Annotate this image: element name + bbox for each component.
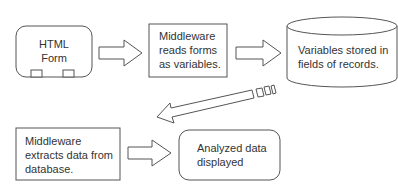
html-form-label: HTML Form: [37, 37, 71, 65]
form-tab-left: [31, 70, 42, 77]
arrow-database-to-extract: [157, 85, 276, 123]
arrow-stripe-2: [264, 86, 271, 95]
middleware-extract-label: Middleware extracts data from database.: [25, 134, 113, 176]
label-line: extracts data from: [25, 148, 113, 162]
label-line: fields of records.: [298, 57, 388, 71]
analyzed-label: Analyzed data displayed: [197, 141, 267, 169]
label-line: displayed: [197, 155, 267, 169]
arrow-form-to-middleware: [99, 40, 142, 66]
form-tab-right: [63, 70, 74, 77]
arrow-stripe-1: [256, 88, 264, 97]
label-line: Analyzed data: [197, 141, 267, 155]
label-line: HTML: [37, 37, 71, 51]
label-line: Variables stored in: [298, 43, 388, 57]
label-line: reads forms: [159, 43, 221, 57]
label-line: Form: [37, 51, 71, 65]
label-line: as variables.: [159, 57, 221, 71]
label-line: Middleware: [25, 134, 113, 148]
middleware-read-label: Middleware reads forms as variables.: [159, 29, 221, 71]
arrow-extract-to-analyzed: [128, 140, 171, 166]
label-line: database.: [25, 162, 113, 176]
arrow-stripe-3: [271, 85, 276, 94]
arrow-middleware-to-database: [236, 40, 281, 66]
label-line: Middleware: [159, 29, 221, 43]
database-label: Variables stored in fields of records.: [298, 43, 388, 71]
